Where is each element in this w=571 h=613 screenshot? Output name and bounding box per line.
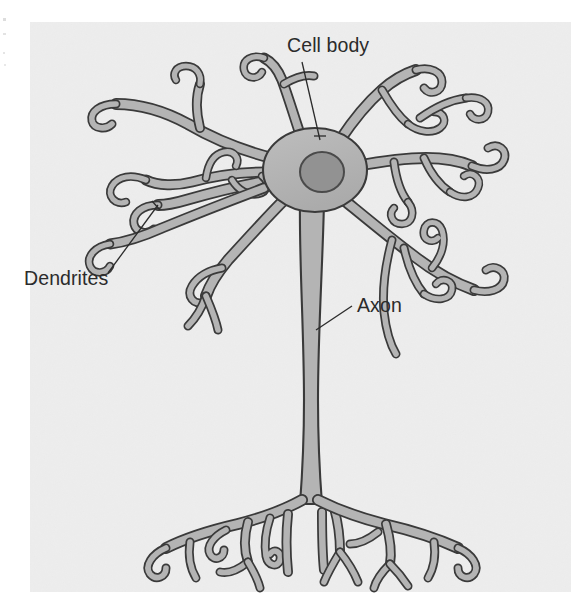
neuron-figure: Cell body Dendrites Axon bbox=[0, 0, 571, 613]
nucleus bbox=[300, 152, 344, 192]
label-text-cell-body: Cell body bbox=[287, 34, 369, 56]
label-text-dendrites: Dendrites bbox=[24, 267, 109, 289]
cell-body-soma bbox=[263, 128, 367, 212]
neuron-diagram-svg: Cell body Dendrites Axon bbox=[0, 0, 571, 613]
label-text-axon: Axon bbox=[357, 294, 402, 316]
